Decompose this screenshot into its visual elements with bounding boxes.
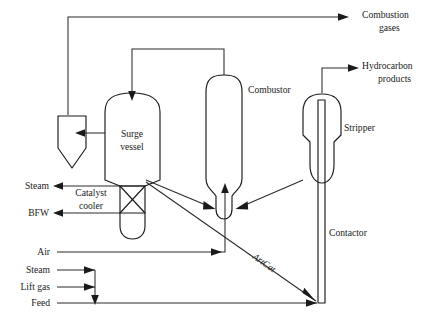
label-lift-gas: Lift gas <box>20 281 50 292</box>
label-surge-vessel-line1: Surge <box>121 128 143 139</box>
label-combustion-gases-line2: gases <box>379 22 400 33</box>
stream-lift-gas <box>57 283 95 291</box>
equipment-stripper[interactable] <box>303 94 341 183</box>
stream-combustor-to-surge <box>128 49 224 101</box>
label-contactor: Contactor <box>329 227 368 238</box>
stream-artcat <box>146 182 316 302</box>
label-feed: Feed <box>31 297 50 308</box>
flow-diagram-canvas: Combustion gases Hydrocarbon products Co… <box>0 0 425 319</box>
label-surge-vessel-line2: vessel <box>120 141 144 152</box>
stream-stripper-to-combustor <box>236 180 304 209</box>
arrowhead-steam-in <box>84 266 95 274</box>
equipment-contactor[interactable] <box>318 100 325 303</box>
arrowhead-artcat <box>303 288 317 302</box>
equipment-separator[interactable] <box>58 116 86 168</box>
arrowhead-steam-out <box>53 182 63 190</box>
equipment-catalyst-cooler[interactable] <box>120 186 145 239</box>
label-bfw: BFW <box>28 207 50 218</box>
label-air: Air <box>37 246 51 257</box>
stream-surge-to-combustor <box>146 180 216 210</box>
label-stripper: Stripper <box>344 122 376 133</box>
equipment-combustor[interactable] <box>206 75 242 219</box>
stream-surge-to-separator <box>75 129 105 137</box>
arrowhead-air-horizontal <box>211 248 222 256</box>
label-combustor: Combustor <box>248 84 291 95</box>
label-artcat: ArtCat <box>250 251 278 275</box>
arrowhead-hydrocarbon-products <box>348 64 359 72</box>
arrowhead-to-separator <box>75 129 85 137</box>
label-hydrocarbon-products-line2: products <box>378 73 411 84</box>
arrowhead-stripper-to-combustor <box>236 201 249 209</box>
stream-steam-in <box>57 266 95 274</box>
label-steam-out: Steam <box>25 180 50 191</box>
arrowhead-lift-gas <box>84 283 95 291</box>
cooler-bottom-head <box>120 213 145 239</box>
label-hydrocarbon-products-line1: Hydrocarbon <box>362 60 413 71</box>
arrowhead-surge-to-combustor <box>203 201 216 210</box>
arrowhead-bfw <box>53 209 63 217</box>
arrowhead-combustion-gases <box>338 13 349 21</box>
process-flow-diagram: Combustion gases Hydrocarbon products Co… <box>0 0 425 319</box>
equipment-surge-vessel[interactable] <box>105 93 160 186</box>
label-catalyst-cooler-line2: cooler <box>79 200 104 211</box>
label-catalyst-cooler-line1: Catalyst <box>75 187 107 198</box>
stream-hydrocarbon-products <box>322 64 359 93</box>
label-combustion-gases-line1: Combustion <box>362 9 409 20</box>
arrowhead-air-into-combustor <box>221 183 229 193</box>
label-steam-in: Steam <box>26 264 51 275</box>
